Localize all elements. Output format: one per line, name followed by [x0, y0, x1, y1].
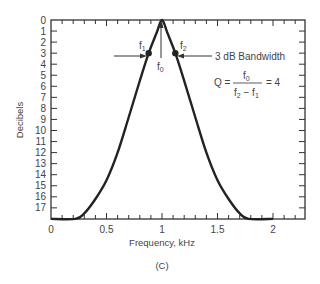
- f2-annotation: f2 3 dB Bandwidth: [177, 40, 285, 62]
- svg-text:= 4: = 4: [266, 77, 281, 88]
- f1-annotation: f1: [114, 40, 147, 59]
- axis-ticks: 0123456789101112131415161700.511.52: [35, 15, 305, 236]
- figure-caption: (C): [155, 260, 168, 271]
- y-tick-label: 0: [40, 15, 46, 26]
- y-tick-label: 17: [35, 202, 47, 213]
- y-tick-label: 5: [40, 70, 46, 81]
- y-tick-label: 11: [36, 136, 47, 147]
- y-tick-label: 16: [35, 191, 47, 202]
- y-tick-label: 4: [40, 59, 46, 70]
- y-axis-label: Decibels: [14, 102, 25, 139]
- y-tick-label: 14: [35, 169, 47, 180]
- y-tick-label: 7: [40, 92, 46, 103]
- y-tick-label: 1: [40, 26, 46, 37]
- y-tick-label: 9: [40, 114, 46, 125]
- bandwidth-label: 3 dB Bandwidth: [215, 51, 285, 62]
- y-tick-label: 6: [40, 81, 46, 92]
- y-tick-label: 2: [40, 37, 46, 48]
- x-tick-label: 0.5: [100, 224, 114, 235]
- response-curve: [51, 20, 273, 219]
- x-tick-label: 1: [159, 224, 165, 235]
- y-tick-label: 8: [40, 103, 46, 114]
- y-tick-label: 12: [35, 147, 47, 158]
- y-tick-label: 15: [35, 180, 47, 191]
- plot-axes: [51, 20, 305, 219]
- q-formula: Q = f0 f2 − f1 = 4: [214, 70, 281, 99]
- y-tick-label: 3: [40, 48, 46, 59]
- svg-text:f1: f1: [139, 40, 146, 52]
- bandwidth-point: [172, 50, 178, 56]
- bandwidth-point: [145, 50, 151, 56]
- y-tick-label: 13: [35, 158, 47, 169]
- x-tick-label: 2: [270, 224, 276, 235]
- svg-text:f2: f2: [180, 40, 187, 52]
- x-tick-label: 1.5: [211, 224, 225, 235]
- y-tick-label: 10: [35, 125, 47, 136]
- bandwidth-markers: [145, 50, 178, 56]
- svg-text:Q =: Q =: [214, 77, 231, 88]
- x-axis-label: Frequency, kHz: [129, 237, 195, 248]
- svg-text:f2 − f1: f2 − f1: [234, 87, 259, 99]
- svg-text:f0: f0: [243, 70, 250, 82]
- svg-text:f0: f0: [157, 61, 164, 73]
- bandpass-chart: 0123456789101112131415161700.511.52 Deci…: [0, 0, 320, 284]
- x-tick-label: 0: [48, 224, 54, 235]
